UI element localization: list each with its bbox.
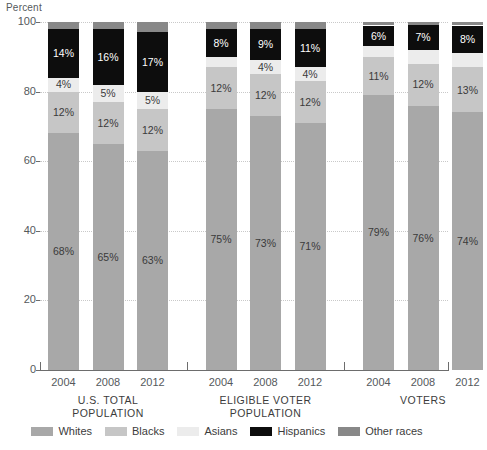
bar-segment-other-races[interactable]	[295, 22, 326, 29]
bar-segment-other-races[interactable]	[452, 22, 483, 25]
bar-2008-7[interactable]: 76%12%7%	[408, 22, 439, 370]
group-label-line-1: VOTERS	[363, 394, 483, 407]
bar-segment-other-races[interactable]	[48, 22, 79, 29]
bar-segment-hispanics[interactable]: 16%	[93, 29, 124, 85]
bar-segment-blacks[interactable]: 11%	[363, 57, 394, 95]
legend-swatch-icon	[105, 427, 127, 436]
bar-segment-whites[interactable]: 68%	[48, 133, 79, 370]
segment-value-label: 71%	[299, 241, 320, 252]
bar-segment-whites[interactable]: 71%	[295, 123, 326, 370]
legend-label: Hispanics	[277, 425, 325, 437]
y-tick-label-40: 40	[6, 224, 36, 236]
bar-2012-8[interactable]: 74%13%8%	[452, 22, 483, 370]
legend-label: Blacks	[132, 425, 164, 437]
legend-label: Other races	[365, 425, 422, 437]
bar-segment-hispanics[interactable]: 8%	[206, 29, 237, 57]
bar-segment-blacks[interactable]: 12%	[48, 92, 79, 134]
bar-segment-asians[interactable]	[363, 46, 394, 56]
segment-value-label: 79%	[368, 227, 389, 238]
bar-segment-whites[interactable]: 79%	[363, 95, 394, 370]
legend-swatch-icon	[31, 427, 53, 436]
bar-segment-hispanics[interactable]: 14%	[48, 29, 79, 78]
bar-segment-whites[interactable]: 75%	[206, 109, 237, 370]
bar-segment-hispanics[interactable]: 7%	[408, 25, 439, 49]
bar-segment-asians[interactable]: 5%	[137, 92, 168, 109]
bar-segment-blacks[interactable]: 12%	[206, 67, 237, 109]
y-axis-ticks: 100806040200	[0, 22, 36, 370]
chart-legend: WhitesBlacksAsiansHispanicsOther races	[0, 425, 454, 437]
segment-value-label: 12%	[97, 118, 118, 129]
bar-segment-other-races[interactable]	[250, 22, 281, 29]
segment-value-label: 8%	[213, 38, 228, 49]
bar-segment-whites[interactable]: 74%	[452, 112, 483, 370]
bar-segment-other-races[interactable]	[363, 22, 394, 25]
segment-value-label: 65%	[97, 252, 118, 263]
bar-segment-other-races[interactable]	[408, 22, 439, 25]
bar-segment-hispanics[interactable]: 9%	[250, 29, 281, 60]
bar-segment-asians[interactable]	[408, 50, 439, 64]
segment-value-label: 68%	[53, 246, 74, 257]
bar-segment-whites[interactable]: 63%	[137, 151, 168, 370]
legend-item-whites[interactable]: Whites	[31, 425, 92, 437]
segment-value-label: 73%	[255, 238, 276, 249]
group-label-line-1: ELIGIBLE VOTER	[206, 394, 326, 407]
bar-segment-asians[interactable]: 4%	[295, 67, 326, 81]
y-tick-label-0: 0	[6, 363, 36, 375]
segment-value-label: 12%	[255, 90, 276, 101]
bar-segment-blacks[interactable]: 12%	[408, 64, 439, 106]
legend-item-hispanics[interactable]: Hispanics	[250, 425, 325, 437]
bar-segment-whites[interactable]: 73%	[250, 116, 281, 370]
legend-item-other-races[interactable]: Other races	[338, 425, 422, 437]
bar-segment-hispanics[interactable]: 11%	[295, 29, 326, 67]
legend-item-blacks[interactable]: Blacks	[105, 425, 164, 437]
x-axis-end-tick	[448, 362, 449, 371]
bar-2004-3[interactable]: 75%12%8%	[206, 22, 237, 370]
bar-2012-2[interactable]: 63%12%5%17%	[137, 22, 168, 370]
bar-segment-whites[interactable]: 65%	[93, 144, 124, 370]
segment-value-label: 75%	[210, 234, 231, 245]
segment-value-label: 17%	[142, 57, 163, 68]
group-label-line-2: POPULATION	[48, 407, 168, 420]
x-group-separator-0	[187, 362, 188, 371]
bar-segment-asians[interactable]: 4%	[48, 78, 79, 92]
legend-swatch-icon	[250, 427, 272, 436]
bar-segment-hispanics[interactable]: 8%	[452, 26, 483, 54]
legend-item-asians[interactable]: Asians	[177, 425, 237, 437]
bar-segment-blacks[interactable]: 12%	[93, 102, 124, 144]
x-group-label-2: VOTERS	[363, 394, 483, 407]
segment-value-label: 76%	[412, 233, 433, 244]
group-label-line-1: U.S. TOTAL	[48, 394, 168, 407]
bar-2012-5[interactable]: 71%12%4%11%	[295, 22, 326, 370]
bar-2004-0[interactable]: 68%12%4%14%	[48, 22, 79, 370]
segment-value-label: 6%	[371, 31, 386, 42]
x-tick-label-8: 2012	[442, 376, 487, 388]
bar-2008-4[interactable]: 73%12%4%9%	[250, 22, 281, 370]
segment-value-label: 8%	[460, 34, 475, 45]
bar-segment-blacks[interactable]: 12%	[137, 109, 168, 151]
bar-segment-other-races[interactable]	[93, 22, 124, 29]
segment-value-label: 5%	[145, 95, 160, 106]
legend-swatch-icon	[338, 427, 360, 436]
bar-segment-asians[interactable]	[452, 53, 483, 67]
bar-segment-blacks[interactable]: 13%	[452, 67, 483, 112]
segment-value-label: 12%	[142, 125, 163, 136]
segment-value-label: 5%	[100, 88, 115, 99]
segment-value-label: 11%	[368, 71, 388, 82]
bar-segment-hispanics[interactable]: 6%	[363, 26, 394, 47]
bar-segment-other-races[interactable]	[206, 22, 237, 29]
segment-value-label: 12%	[412, 79, 433, 90]
plot-area: 68%12%4%14%65%12%5%16%63%12%5%17%75%12%8…	[40, 22, 448, 370]
bar-segment-asians[interactable]	[206, 57, 237, 67]
bar-segment-asians[interactable]: 5%	[93, 85, 124, 102]
bar-segment-hispanics[interactable]: 17%	[137, 32, 168, 91]
bar-segment-asians[interactable]: 4%	[250, 60, 281, 74]
bar-2004-6[interactable]: 79%11%6%	[363, 22, 394, 370]
segment-value-label: 16%	[97, 52, 118, 63]
bar-segment-whites[interactable]: 76%	[408, 106, 439, 370]
x-axis-spine	[40, 370, 448, 371]
bar-segment-other-races[interactable]	[137, 22, 168, 32]
segment-value-label: 12%	[53, 107, 74, 118]
bar-segment-blacks[interactable]: 12%	[295, 81, 326, 123]
bar-segment-blacks[interactable]: 12%	[250, 74, 281, 116]
bar-2008-1[interactable]: 65%12%5%16%	[93, 22, 124, 370]
